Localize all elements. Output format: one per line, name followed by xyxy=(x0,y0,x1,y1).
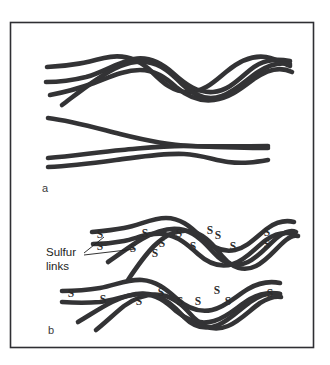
sulfur-link-lower-8: S xyxy=(267,287,273,299)
figure-background xyxy=(0,0,330,365)
sulfur-link-upper-7: S xyxy=(190,240,196,252)
sulfur-link-lower-0: S xyxy=(68,287,74,299)
panel-label-a: a xyxy=(42,182,49,194)
sulfur-link-upper-3: S xyxy=(142,227,148,239)
sulfur-link-lower-2: S xyxy=(136,295,142,307)
sulfur-link-lower-7: S xyxy=(225,295,231,307)
sulfur-link-upper-2: S xyxy=(130,242,136,254)
sulfur-link-upper-6: S xyxy=(176,227,182,239)
sulfur-link-lower-1: S xyxy=(100,293,106,305)
sulfur-link-upper-5: S xyxy=(159,237,165,249)
sulfur-link-upper-10: S xyxy=(230,240,236,252)
figure-container: a b Sulfur links SSSSSSSSSSSSS SSSSSSSSS xyxy=(0,0,330,365)
panel-label-b: b xyxy=(48,324,54,336)
sulfur-link-lower-4: S xyxy=(177,295,183,307)
sulfur-link-upper-12: S xyxy=(264,238,270,250)
sulfur-link-lower-5: S xyxy=(195,295,201,307)
sulfur-link-upper-8: S xyxy=(207,224,213,236)
annotation-line-2: links xyxy=(46,260,69,272)
polymer-vulcanization-diagram: a b Sulfur links SSSSSSSSSSSSS SSSSSSSSS xyxy=(0,0,330,365)
sulfur-link-upper-9: S xyxy=(215,229,221,241)
sulfur-link-upper-0: S xyxy=(97,228,103,240)
sulfur-link-upper-1: S xyxy=(97,240,103,252)
sulfur-link-upper-4: S xyxy=(152,247,158,259)
sulfur-link-upper-11: S xyxy=(264,226,270,238)
sulfur-link-lower-3: S xyxy=(158,286,164,298)
annotation-line-1: Sulfur xyxy=(46,246,76,258)
sulfur-link-lower-6: S xyxy=(214,284,220,296)
